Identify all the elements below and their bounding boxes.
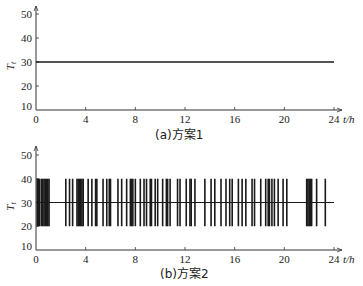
y-axis-title: Tt bbox=[4, 202, 18, 211]
pulse-bar bbox=[229, 179, 231, 227]
pulse-bar bbox=[179, 179, 181, 227]
pulse-bar bbox=[162, 179, 164, 227]
pulse-bar bbox=[154, 179, 156, 227]
panel-b-caption: (b)方案2 bbox=[160, 264, 209, 281]
panel-b-plot: 102030405004812162024t/hTt bbox=[4, 146, 355, 265]
pulse-bar bbox=[110, 179, 112, 227]
y-tick-label: 30 bbox=[21, 56, 33, 68]
pulse-bar bbox=[65, 179, 67, 227]
pulse-bar bbox=[82, 179, 84, 227]
pulse-bar bbox=[87, 179, 89, 227]
pulse-bar bbox=[102, 179, 104, 227]
y-tick-label: 50 bbox=[21, 149, 33, 161]
pulse-bar bbox=[286, 179, 288, 227]
x-tick-label: 24 bbox=[329, 253, 341, 265]
pulse-bar bbox=[96, 179, 98, 227]
pulse-bar bbox=[167, 179, 169, 227]
pulse-bar bbox=[269, 179, 271, 227]
pulse-bar bbox=[91, 179, 93, 227]
x-axis-title: t/h bbox=[343, 253, 355, 265]
chart-canvas: 102030405004812162024t/hTt 1020304050048… bbox=[0, 0, 363, 286]
y-axis-title: Tt bbox=[4, 61, 18, 70]
x-tick-label: 0 bbox=[33, 113, 39, 125]
pulse-bar bbox=[271, 179, 273, 227]
pulse-bar bbox=[245, 179, 247, 227]
y-tick-label: 20 bbox=[21, 220, 33, 232]
pulse-bar bbox=[169, 179, 171, 227]
pulse-bar bbox=[117, 179, 119, 227]
y-tick-label: 40 bbox=[21, 173, 33, 185]
y-tick-label: 10 bbox=[21, 100, 33, 112]
pulse-bar bbox=[69, 179, 71, 227]
pulse-bar bbox=[225, 179, 227, 227]
x-tick-label: 4 bbox=[83, 113, 89, 125]
x-tick-label: 8 bbox=[133, 253, 139, 265]
pulse-bar bbox=[157, 179, 159, 227]
x-tick-label: 12 bbox=[180, 113, 191, 125]
pulse-bar bbox=[265, 179, 267, 227]
y-tick-label: 30 bbox=[21, 197, 33, 209]
pulse-bar bbox=[126, 179, 128, 227]
pulse-bar bbox=[39, 179, 41, 227]
pulse-bar bbox=[274, 179, 276, 227]
pulse-bar bbox=[220, 179, 222, 227]
pulse-bar bbox=[316, 179, 318, 227]
x-tick-label: 20 bbox=[279, 253, 291, 265]
x-tick-label: 16 bbox=[229, 253, 241, 265]
pulse-bar bbox=[140, 179, 142, 227]
x-tick-label: 16 bbox=[229, 113, 241, 125]
pulse-bar bbox=[72, 179, 74, 227]
pulse-bar bbox=[132, 179, 134, 227]
pulse-bar bbox=[231, 179, 233, 227]
x-tick-label: 8 bbox=[133, 113, 139, 125]
pulse-bar bbox=[48, 179, 50, 227]
pulse-bar bbox=[254, 179, 256, 227]
pulse-bar bbox=[106, 179, 108, 227]
pulse-bar bbox=[214, 179, 216, 227]
pulse-bar bbox=[151, 179, 153, 227]
pulse-bar bbox=[241, 179, 243, 227]
pulse-bar bbox=[146, 179, 148, 227]
pulse-bar bbox=[311, 179, 313, 227]
y-tick-label: 10 bbox=[21, 240, 33, 252]
y-tick-label: 50 bbox=[21, 8, 33, 20]
pulse-bar bbox=[260, 179, 262, 227]
panel-a-caption: (a)方案1 bbox=[155, 125, 203, 142]
pulse-bar bbox=[282, 179, 284, 227]
pulse-bar bbox=[143, 179, 145, 227]
pulse-bar bbox=[121, 179, 123, 227]
pulse-bar bbox=[204, 179, 206, 227]
panel-a-plot: 102030405004812162024t/hTt bbox=[4, 6, 355, 125]
y-tick-label: 20 bbox=[21, 80, 33, 92]
x-tick-label: 4 bbox=[83, 253, 89, 265]
pulse-bar bbox=[210, 179, 212, 227]
x-axis-title: t/h bbox=[343, 113, 355, 125]
pulse-bar bbox=[185, 179, 187, 227]
x-tick-label: 20 bbox=[279, 113, 291, 125]
x-tick-label: 0 bbox=[33, 253, 39, 265]
pulse-bar bbox=[190, 179, 192, 227]
y-tick-label: 40 bbox=[21, 32, 33, 44]
pulse-bar bbox=[194, 179, 196, 227]
pulse-bar bbox=[277, 179, 279, 227]
pulse-bar bbox=[135, 179, 137, 227]
pulse-bar bbox=[325, 179, 327, 227]
pulse-bar bbox=[251, 179, 253, 227]
x-tick-label: 24 bbox=[329, 113, 341, 125]
pulse-bar bbox=[177, 179, 179, 227]
pulse-bar bbox=[238, 179, 240, 227]
